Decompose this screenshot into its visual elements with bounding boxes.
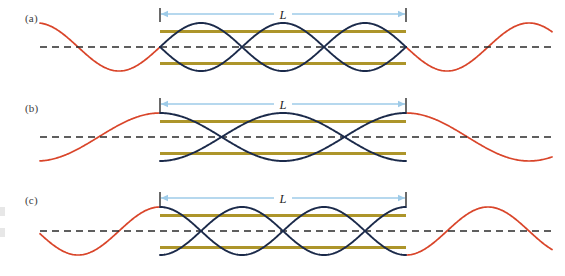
page-edge-artifact bbox=[0, 228, 5, 237]
dimension-label-L: L bbox=[279, 192, 287, 206]
panel-b: (b) L bbox=[0, 90, 565, 182]
dimension-arrowhead-left bbox=[161, 195, 168, 201]
dimension-label-L: L bbox=[279, 8, 287, 22]
panel-b-graphic: L bbox=[0, 90, 565, 182]
panel-a: (a) L bbox=[0, 0, 565, 92]
panel-c: (c) L bbox=[0, 182, 565, 276]
page-edge-artifact bbox=[0, 207, 5, 216]
dimension-arrowhead-right bbox=[398, 195, 405, 201]
panel-c-graphic: L bbox=[0, 182, 565, 276]
dimension-label-L: L bbox=[279, 98, 287, 112]
dimension-arrowhead-left bbox=[161, 101, 168, 107]
dimension-arrowhead-right bbox=[398, 11, 405, 17]
dimension-arrowhead-right bbox=[398, 101, 405, 107]
panel-a-graphic: L bbox=[0, 0, 565, 92]
standing-wave-figure: (a) L (b) L (c) L bbox=[0, 0, 565, 276]
dimension-arrowhead-left bbox=[161, 11, 168, 17]
